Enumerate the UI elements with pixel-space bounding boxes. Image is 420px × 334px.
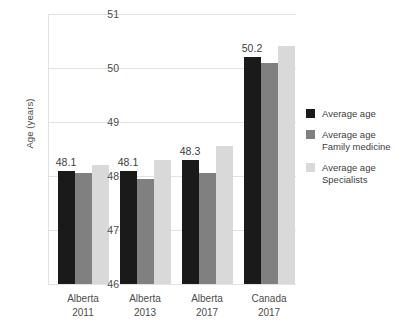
bar: [261, 63, 278, 284]
bar-data-label: 48.1: [105, 156, 151, 168]
bar-data-label: 50.2: [229, 42, 275, 54]
bar: [120, 171, 137, 284]
legend-item-1[interactable]: Average ageFamily medicine: [306, 129, 418, 153]
y-axis-tick-label: 47: [85, 224, 119, 236]
bar-group: [58, 14, 109, 284]
bar-data-label: 48.3: [167, 145, 213, 157]
legend-swatch-icon: [306, 109, 315, 118]
y-axis-tick-label: 46: [85, 278, 119, 290]
y-axis-title: Age (years): [24, 69, 35, 179]
bar: [278, 46, 295, 284]
y-axis-tick-label: 48: [85, 170, 119, 182]
x-axis-category-label: Canada2017: [229, 292, 309, 320]
legend-label-line1: Average age: [322, 129, 418, 141]
chart-legend: Average ageAverage ageFamily medicineAve…: [306, 108, 418, 195]
bar-group: [120, 14, 171, 284]
y-axis-tick-label: 51: [85, 8, 119, 20]
bar: [58, 171, 75, 284]
bar: [244, 57, 261, 284]
legend-item-0[interactable]: Average age: [306, 108, 418, 120]
bar: [216, 146, 233, 284]
bar: [154, 160, 171, 284]
bar: [199, 173, 216, 284]
bar: [137, 179, 154, 284]
x-axis-category-line: 2017: [229, 306, 309, 320]
y-axis-tick-label: 50: [85, 62, 119, 74]
bar: [182, 160, 199, 284]
legend-label-line2: Family medicine: [322, 141, 418, 153]
bar-group: [244, 14, 295, 284]
legend-item-2[interactable]: Average ageSpecialists: [306, 162, 418, 186]
bar-data-label: 48.1: [43, 156, 89, 168]
x-axis-category-line: Canada: [229, 292, 309, 306]
y-axis-tick-label: 49: [85, 116, 119, 128]
legend-swatch-icon: [306, 130, 315, 139]
legend-label-line1: Average age: [322, 162, 418, 174]
legend-label-line1: Average age: [322, 108, 418, 120]
legend-swatch-icon: [306, 163, 315, 172]
legend-label-line2: Specialists: [322, 174, 418, 186]
y-axis-line: [48, 14, 49, 284]
bar-chart: Age (years) Average ageAverage ageFamily…: [0, 0, 420, 334]
